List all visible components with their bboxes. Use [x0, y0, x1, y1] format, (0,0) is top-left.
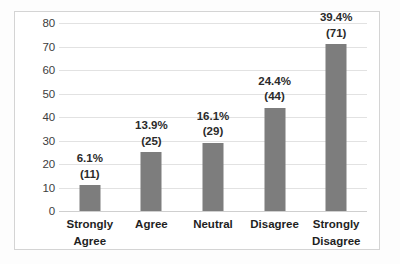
x-axis-tick-line: Strongly: [59, 216, 121, 233]
x-axis-tick-label: Neutral: [182, 216, 244, 233]
bar-count-label: (25): [135, 134, 168, 150]
x-axis-tick-label: StronglyDisagree: [305, 216, 367, 249]
y-axis-tick-label: 70: [42, 41, 55, 53]
x-axis-tick-label: Agree: [121, 216, 183, 233]
gridline: [59, 211, 367, 212]
plot-area: 6.1%(11)13.9%(25)16.1%(29)24.4%(44)39.4%…: [59, 23, 367, 211]
bar-data-label: 6.1%(11): [77, 151, 103, 182]
bar-count-label: (29): [197, 124, 230, 140]
bar-data-label: 24.4%(44): [258, 74, 291, 105]
bar-slot: 24.4%(44): [244, 23, 306, 211]
bar-percent-label: 24.4%: [258, 74, 291, 90]
bar-percent-label: 39.4%: [320, 10, 353, 26]
bar-count-label: (44): [258, 89, 291, 105]
x-axis-tick-line: Agree: [121, 216, 183, 233]
y-axis-tick-label: 40: [42, 111, 55, 123]
bar-slot: 16.1%(29): [182, 23, 244, 211]
x-axis-tick-label: Disagree: [244, 216, 306, 233]
x-axis-tick-line: Disagree: [244, 216, 306, 233]
chart-plot-frame: 01020304050607080 6.1%(11)13.9%(25)16.1%…: [14, 11, 380, 250]
y-axis: 01020304050607080: [23, 23, 55, 211]
bar[interactable]: [141, 152, 162, 211]
y-axis-tick-label: 50: [42, 88, 55, 100]
bar-count-label: (71): [320, 26, 353, 42]
bar-data-label: 39.4%(71): [320, 10, 353, 41]
x-axis-tick-line: Neutral: [182, 216, 244, 233]
x-axis-tick-line: Strongly: [305, 216, 367, 233]
y-axis-tick-label: 60: [42, 64, 55, 76]
bar[interactable]: [264, 108, 285, 211]
x-axis-tick-line: Agree: [59, 233, 121, 250]
bar-percent-label: 6.1%: [77, 151, 103, 167]
y-axis-tick-label: 30: [42, 135, 55, 147]
bar-slot: 13.9%(25): [121, 23, 183, 211]
y-axis-tick-label: 10: [42, 182, 55, 194]
x-axis: StronglyAgreeAgreeNeutralDisagreeStrongl…: [59, 216, 367, 250]
x-axis-tick-line: Disagree: [305, 233, 367, 250]
bar[interactable]: [326, 44, 347, 211]
y-axis-tick-label: 80: [42, 17, 55, 29]
bar-data-label: 16.1%(29): [197, 109, 230, 140]
y-axis-tick-label: 20: [42, 158, 55, 170]
y-axis-tick-label: 0: [49, 205, 55, 217]
bar-slot: 39.4%(71): [305, 23, 367, 211]
bar[interactable]: [79, 185, 100, 211]
bar-chart-figure: 01020304050607080 6.1%(11)13.9%(25)16.1%…: [0, 0, 400, 264]
bar-percent-label: 16.1%: [197, 109, 230, 125]
bar[interactable]: [202, 143, 223, 211]
bar-data-label: 13.9%(25): [135, 118, 168, 149]
bar-percent-label: 13.9%: [135, 118, 168, 134]
bar-slot: 6.1%(11): [59, 23, 121, 211]
x-axis-tick-label: StronglyAgree: [59, 216, 121, 249]
bar-count-label: (11): [77, 167, 103, 183]
